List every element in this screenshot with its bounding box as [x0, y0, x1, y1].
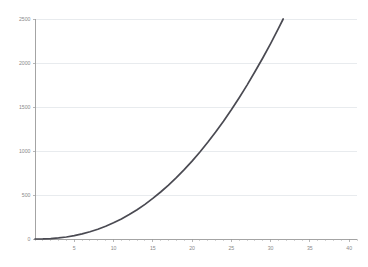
x-tick-label: 30 [268, 245, 274, 251]
x-tick-label: 25 [228, 245, 234, 251]
x-tick-label: 35 [307, 245, 313, 251]
y-tick-label: 2000 [19, 60, 31, 66]
y-tick-label: 2500 [19, 16, 31, 22]
x-tick-label: 15 [150, 245, 156, 251]
axes [35, 19, 357, 239]
series-lines [35, 19, 283, 239]
line-chart: 05001000150020002500510152025303540 [0, 0, 368, 267]
x-tick-label: 5 [73, 245, 76, 251]
x-tick-label: 20 [189, 245, 195, 251]
series-line [35, 19, 283, 239]
tick-labels: 05001000150020002500510152025303540 [19, 16, 352, 251]
tick-marks [33, 19, 358, 242]
gridlines [35, 19, 357, 195]
chart-container: 05001000150020002500510152025303540 [0, 0, 368, 267]
y-tick-label: 500 [22, 192, 31, 198]
y-tick-label: 1500 [19, 104, 31, 110]
y-tick-label: 1000 [19, 148, 31, 154]
x-tick-label: 10 [111, 245, 117, 251]
y-tick-label: 0 [28, 236, 31, 242]
x-tick-label: 40 [346, 245, 352, 251]
